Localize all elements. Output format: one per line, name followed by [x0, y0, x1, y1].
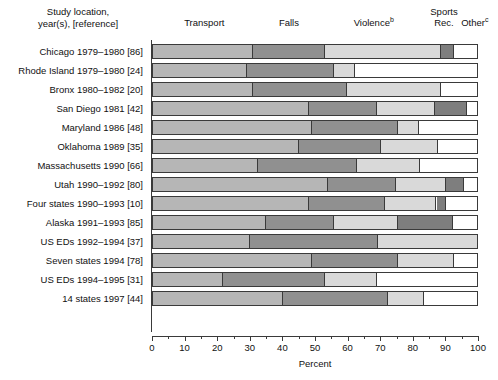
stacked-bar: [152, 120, 478, 135]
bar-row: [152, 61, 478, 80]
bar-segment-other: [356, 64, 478, 77]
x-tick-major: [282, 336, 283, 341]
plot-area: [152, 42, 478, 327]
x-tick-major: [478, 336, 479, 341]
category-header-transport: Transport: [184, 17, 224, 37]
bar-segment-transport: [153, 254, 312, 267]
bar-segment-transport: [153, 140, 299, 153]
bar-segment-falls: [283, 292, 388, 305]
bar-segment-falls: [258, 159, 357, 172]
category-header-other: Otherc: [461, 17, 488, 37]
stacked-bar: [152, 44, 478, 59]
bar-row: [152, 232, 478, 251]
bar-segment-falls: [299, 140, 382, 153]
stacked-bar: [152, 234, 478, 249]
stacked-bar: [152, 215, 478, 230]
bar-segment-other: [377, 273, 477, 286]
bar-segment-falls: [247, 64, 334, 77]
x-tick-minor: [397, 336, 398, 339]
bar-segment-transport: [153, 83, 253, 96]
x-tick-major: [413, 336, 414, 341]
bar-row: [152, 270, 478, 289]
x-tick-minor: [331, 336, 332, 339]
bar-segment-violence: [385, 197, 437, 210]
bar-segment-other: [464, 178, 477, 191]
bar-segment-violence: [377, 102, 435, 115]
bar-segment-transport: [153, 235, 250, 248]
stacked-bar: [152, 158, 478, 173]
x-tick-label: 80: [408, 342, 419, 353]
bar-segment-falls: [223, 273, 325, 286]
bar-segment-other: [438, 140, 477, 153]
category-header-falls: Falls: [279, 17, 299, 37]
bar-segment-falls: [328, 178, 396, 191]
x-tick-minor: [234, 336, 235, 339]
row-label: Seven states 1994 [78]: [0, 251, 148, 270]
bar-segment-falls: [253, 83, 347, 96]
row-label: Alaska 1991–1993 [85]: [0, 213, 148, 232]
x-tick-minor: [266, 336, 267, 339]
category-header-sports-rec: SportsRec.: [430, 6, 457, 37]
bar-row: [152, 194, 478, 213]
x-tick-label: 40: [277, 342, 288, 353]
x-tick-label: 10: [179, 342, 190, 353]
bar-segment-transport: [153, 197, 309, 210]
stacked-bar: [152, 63, 478, 78]
x-tick-minor: [429, 336, 430, 339]
x-tick-minor: [462, 336, 463, 339]
row-label: US EDs 1994–1995 [31]: [0, 270, 148, 289]
x-tick-major: [217, 336, 218, 341]
x-tick-label: 100: [470, 342, 486, 353]
bar-segment-transport: [153, 102, 309, 115]
bar-segment-other: [441, 83, 477, 96]
bar-segment-other: [446, 197, 477, 210]
stacked-bar-chart-figure: Study location, year(s), [reference] Tra…: [0, 0, 498, 380]
stacked-bar: [152, 196, 478, 211]
bar-segment-violence: [396, 178, 446, 191]
x-tick-minor: [168, 336, 169, 339]
bar-row: [152, 118, 478, 137]
bar-segment-violence: [378, 235, 477, 248]
bar-row: [152, 175, 478, 194]
bar-segment-transport: [153, 273, 223, 286]
stacked-bar: [152, 272, 478, 287]
footnote-marker-b: b: [390, 16, 394, 23]
bar-segment-violence: [325, 45, 442, 58]
x-tick-major: [348, 336, 349, 341]
bar-segment-violence: [334, 64, 355, 77]
bar-segment-falls: [250, 235, 378, 248]
x-axis: Percent 0102030405060708090100: [152, 336, 478, 376]
bar-segment-other: [424, 292, 477, 305]
row-label: Utah 1990–1992 [80]: [0, 175, 148, 194]
row-label-column-header: Study location, year(s), [reference]: [8, 6, 148, 30]
bar-segment-violence: [398, 254, 455, 267]
bar-row: [152, 99, 478, 118]
bar-row: [152, 251, 478, 270]
stacked-bar: [152, 177, 478, 192]
bar-segment-other: [454, 254, 477, 267]
x-tick-major: [185, 336, 186, 341]
row-label: Four states 1990–1993 [10]: [0, 194, 148, 213]
row-label: Rhode Island 1979–1980 [24]: [0, 61, 148, 80]
x-tick-major: [152, 336, 153, 341]
bar-row: [152, 80, 478, 99]
bar-row: [152, 42, 478, 61]
bar-segment-violence: [388, 292, 424, 305]
x-tick-major: [445, 336, 446, 341]
bar-segment-falls: [309, 197, 385, 210]
x-tick-label: 30: [245, 342, 256, 353]
bar-segment-sports-rec: [398, 216, 453, 229]
bar-segment-violence: [357, 159, 420, 172]
row-label: US EDs 1992–1994 [37]: [0, 232, 148, 251]
bar-segment-transport: [153, 292, 283, 305]
bar-segment-transport: [153, 45, 253, 58]
stacked-bar: [152, 291, 478, 306]
bar-segment-transport: [153, 178, 328, 191]
bar-segment-violence: [325, 273, 377, 286]
x-axis-title: Percent: [152, 358, 478, 369]
bar-segment-falls: [253, 45, 324, 58]
bar-row: [152, 156, 478, 175]
bar-row: [152, 137, 478, 156]
bar-row: [152, 289, 478, 308]
x-tick-minor: [201, 336, 202, 339]
